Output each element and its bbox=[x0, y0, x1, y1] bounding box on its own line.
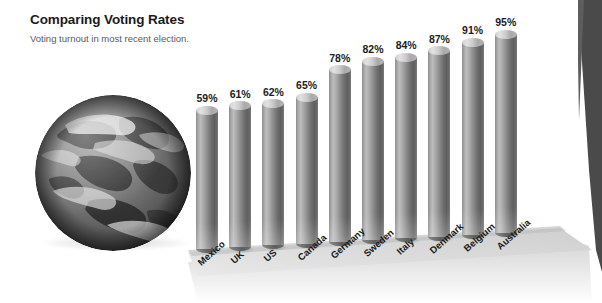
bars-layer: 59%Mexico61%UK62%US65%Canada78%Germany82… bbox=[0, 0, 602, 303]
value-label-italy: 84% bbox=[388, 39, 424, 51]
bar-mexico bbox=[196, 110, 218, 249]
bar-top-ellipse bbox=[196, 106, 218, 115]
value-label-belgium: 91% bbox=[455, 24, 491, 36]
page-title: Comparing Voting Rates bbox=[30, 12, 189, 28]
bar-belgium bbox=[462, 42, 484, 234]
value-label-denmark: 87% bbox=[421, 33, 457, 45]
bar-base-fade bbox=[229, 221, 251, 247]
bar-us bbox=[262, 104, 284, 246]
value-label-germany: 78% bbox=[322, 52, 358, 64]
value-label-australia: 95% bbox=[488, 16, 524, 28]
bar-shaft bbox=[462, 42, 484, 234]
bar-italy bbox=[395, 57, 417, 238]
bar-shaft bbox=[395, 57, 417, 238]
bar-sweden bbox=[362, 61, 384, 240]
bar-uk bbox=[229, 106, 251, 247]
bar-shaft bbox=[428, 51, 450, 237]
value-label-mexico: 59% bbox=[189, 92, 225, 104]
bar-canada bbox=[296, 97, 318, 243]
bar-top-ellipse bbox=[362, 57, 384, 66]
value-label-sweden: 82% bbox=[355, 43, 391, 55]
bar-germany bbox=[329, 70, 351, 242]
value-label-uk: 61% bbox=[222, 88, 258, 100]
value-label-us: 62% bbox=[255, 86, 291, 98]
bar-top-ellipse bbox=[462, 38, 484, 47]
chart-subtitle: Voting turnout in most recent election. bbox=[30, 33, 189, 44]
bar-top-ellipse bbox=[296, 93, 318, 102]
bar-australia bbox=[495, 34, 517, 233]
value-label-canada: 65% bbox=[289, 79, 325, 91]
bar-base-fade bbox=[395, 212, 417, 238]
bar-top-ellipse bbox=[395, 53, 417, 62]
bar-denmark bbox=[428, 51, 450, 237]
bar-top-ellipse bbox=[495, 30, 517, 39]
voting-rates-chart: 59%Mexico61%UK62%US65%Canada78%Germany82… bbox=[0, 0, 602, 303]
chart-header: Comparing Voting Rates Voting turnout in… bbox=[30, 12, 189, 44]
bar-base-fade bbox=[262, 219, 284, 245]
bar-shaft bbox=[495, 34, 517, 233]
